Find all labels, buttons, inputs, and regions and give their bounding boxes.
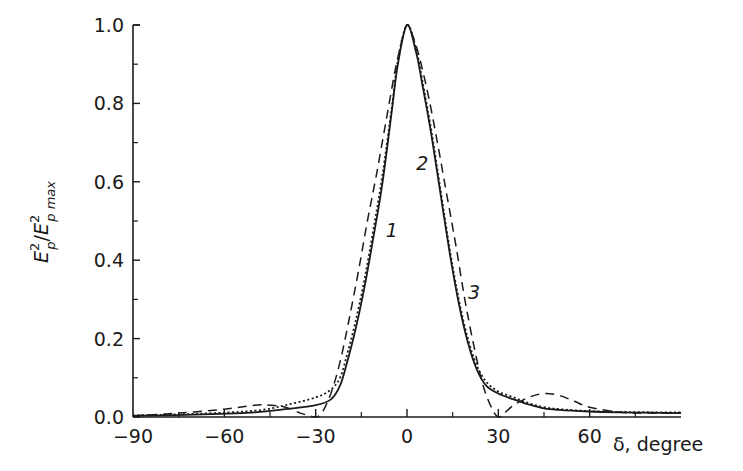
- series-1-solid-line: [133, 25, 681, 416]
- y-tick-label: 0.4: [94, 249, 124, 271]
- x-tick-label: 60: [578, 425, 602, 447]
- series-2-dotted-line: [133, 25, 681, 416]
- y-tick-label: 0.2: [94, 328, 124, 350]
- x-tick-label: −30: [296, 425, 336, 447]
- svg-text:E2p/E2p max: E2p/E2p max: [27, 181, 58, 263]
- y-tick-label: 1.0: [94, 14, 124, 36]
- x-tick-label: −60: [204, 425, 244, 447]
- curve-label-1: 1: [386, 219, 398, 241]
- labels-layer: 123: [386, 152, 480, 303]
- curve-label-3: 3: [468, 281, 480, 303]
- x-tick-label: 30: [486, 425, 510, 447]
- y-tick-label: 0.0: [94, 406, 124, 428]
- curve-label-2: 2: [416, 152, 428, 174]
- y-tick-label: 0.6: [94, 171, 124, 193]
- series-layer: [133, 25, 681, 417]
- y-tick-label: 0.8: [94, 92, 124, 114]
- line-chart: −90−60−30030600.00.20.40.60.81.0 123 δ, …: [0, 0, 743, 471]
- x-axis-label: δ, degree: [613, 433, 703, 455]
- y-axis-label: E2p/E2p max: [27, 181, 58, 263]
- x-tick-label: 0: [401, 425, 413, 447]
- series-3-dashed-line: [133, 25, 681, 417]
- x-tick-label: −90: [113, 425, 153, 447]
